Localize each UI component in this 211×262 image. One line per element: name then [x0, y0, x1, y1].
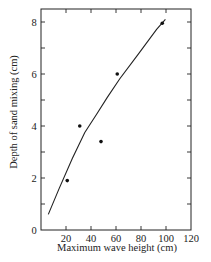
y-axis-title: Depth of sand mixing (cm) [8, 55, 20, 169]
y-tick-label: 4 [31, 121, 37, 132]
data-point [160, 22, 164, 26]
y-tick-label: 2 [31, 173, 36, 184]
x-tick-label: 120 [183, 233, 199, 244]
y-tick-label: 6 [31, 69, 36, 80]
y-tick-label: 0 [31, 225, 36, 236]
data-point [65, 179, 69, 183]
data-point [99, 140, 103, 144]
y-tick-label: 8 [31, 17, 36, 28]
fit-curve [48, 19, 165, 214]
tick-labels: 2040608010012002468 [31, 17, 199, 244]
x-axis-title: Maximum wave height (cm) [57, 242, 177, 254]
plot-frame [41, 9, 191, 230]
axes-box [41, 9, 191, 230]
data-points [65, 22, 164, 183]
data-point [115, 72, 119, 76]
data-point [78, 124, 82, 128]
axis-ticks [41, 9, 191, 230]
chart: 2040608010012002468 Maximum wave height … [0, 0, 211, 262]
fit-curve-layer [48, 19, 165, 214]
